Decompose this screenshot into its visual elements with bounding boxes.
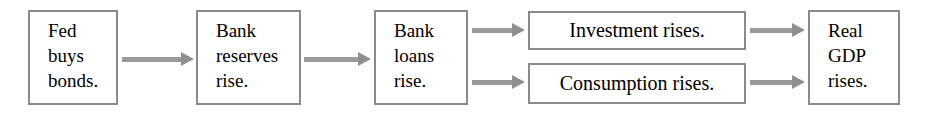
- node-fed-buys-bonds: Fed buys bonds.: [28, 10, 118, 105]
- node-bank-loans-rise: Bank loans rise.: [374, 10, 468, 105]
- arrow-shaft: [750, 80, 793, 85]
- arrow-shaft: [122, 57, 182, 62]
- arrow-head-icon: [181, 52, 194, 66]
- flowchart-canvas: Fed buys bonds.Bank reserves rise.Bank l…: [0, 0, 926, 116]
- node-investment-rises: Investment rises.: [528, 11, 746, 50]
- arrow-shaft: [750, 28, 793, 33]
- arrow-shaft: [472, 28, 513, 33]
- arrow-head-icon: [512, 75, 525, 89]
- arrow-head-icon: [792, 23, 805, 37]
- arrow-head-icon: [512, 23, 525, 37]
- arrow-head-icon: [792, 75, 805, 89]
- arrow-loans-to-investment: [472, 27, 525, 34]
- arrow-shaft: [304, 57, 359, 62]
- arrow-head-icon: [358, 52, 371, 66]
- arrow-reserves-to-loans: [304, 56, 371, 63]
- node-real-gdp-rises: Real GDP rises.: [808, 10, 900, 105]
- arrow-loans-to-consumption: [472, 79, 525, 86]
- node-bank-reserves-rise: Bank reserves rise.: [196, 10, 301, 105]
- arrow-investment-to-gdp: [750, 27, 805, 34]
- arrow-shaft: [472, 80, 513, 85]
- node-consumption-rises: Consumption rises.: [528, 63, 746, 104]
- arrow-fed-to-reserves: [122, 56, 194, 63]
- arrow-consumption-to-gdp: [750, 79, 805, 86]
